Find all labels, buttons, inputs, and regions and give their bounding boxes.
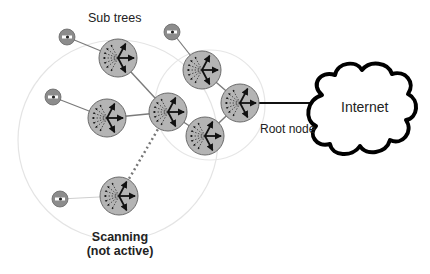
node-root xyxy=(221,84,259,122)
coverage-areas xyxy=(18,40,265,240)
scanning-label: Scanning (not active) xyxy=(80,230,160,258)
gateway-gw-4 xyxy=(52,191,68,207)
gateway-gw-1 xyxy=(59,29,75,45)
gateway-dot xyxy=(66,35,69,38)
mesh-network-diagram xyxy=(0,0,430,274)
gateway-dot xyxy=(59,197,62,200)
scanning-label-line1: Scanning xyxy=(80,230,160,244)
node-lower-right xyxy=(186,117,224,155)
node-top-right xyxy=(183,51,221,89)
scanning-label-line2: (not active) xyxy=(80,244,160,258)
nodes xyxy=(88,39,259,215)
root-node-label: Root node xyxy=(260,122,315,136)
node-subtree-top xyxy=(99,39,137,77)
node-center xyxy=(149,93,187,131)
internet-label: Internet xyxy=(341,99,388,115)
node-subtree-left xyxy=(88,99,126,137)
gateway-gw-2 xyxy=(164,24,180,40)
gateway-dot xyxy=(52,95,55,98)
gateway-dot xyxy=(171,30,174,33)
gateway-gw-3 xyxy=(45,89,61,105)
node-scanning xyxy=(100,177,138,215)
subtrees-label: Sub trees xyxy=(88,11,142,25)
